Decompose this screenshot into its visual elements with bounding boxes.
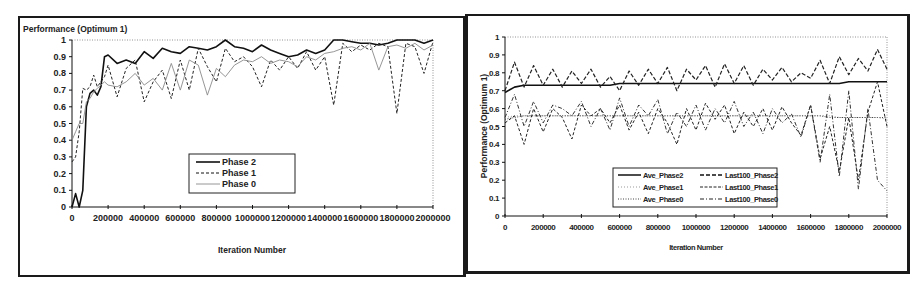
x-tick-label: 200000 [93, 213, 123, 223]
y-tick-label: 0.2 [53, 169, 66, 179]
x-tick-label: 400000 [129, 213, 159, 223]
x-tick-label: 800000 [201, 213, 231, 223]
y-tick-label: 0.1 [53, 185, 66, 195]
y-tick-label: 0.3 [489, 158, 500, 167]
x-tick-label: 1800000 [835, 223, 864, 232]
left-chart: Performance (Optimum 1) 00.10.20.30.40.5… [23, 24, 451, 255]
left-chart-title: Performance (Optimum 1) [23, 24, 128, 34]
x-tick-label: 1400000 [758, 223, 787, 232]
left-x-axis: 0200000400000600000800000100000012000001… [69, 205, 450, 223]
y-tick-label: 0.8 [489, 69, 500, 78]
x-tick-label: 1200000 [720, 223, 749, 232]
x-tick-label: 200000 [531, 223, 556, 232]
charts-canvas: Performance (Optimum 1) 00.10.20.30.40.5… [0, 0, 921, 287]
legend-last100-phase0-label: Last100_Phase0 [725, 195, 778, 204]
left-legend: Phase 2 Phase 1 Phase 0 [189, 154, 295, 193]
x-tick-label: 1600000 [796, 223, 825, 232]
y-tick-label: 1 [495, 33, 500, 42]
legend-phase2-label: Phase 2 [222, 157, 256, 167]
legend-last100-phase1-label: Last100_Phase1 [725, 183, 778, 192]
y-tick-label: 0.4 [489, 140, 500, 149]
right-legend: Ave_Phase2 Ave_Phase1 Ave_Phase0 Last100… [613, 168, 778, 207]
x-tick-label: 2000000 [873, 223, 902, 232]
legend-phase1-label: Phase 1 [222, 168, 256, 178]
legend-ave-phase0-label: Ave_Phase0 [643, 195, 683, 204]
y-tick-label: 0.9 [53, 52, 66, 62]
left-x-axis-title: Iteration Number [218, 245, 287, 255]
y-tick-label: 0.4 [53, 135, 66, 145]
y-tick-label: 0.9 [489, 51, 500, 60]
x-tick-label: 1000000 [682, 223, 711, 232]
x-tick-label: 1200000 [271, 213, 306, 223]
y-tick-label: 0.5 [53, 119, 66, 129]
x-tick-label: 600000 [607, 223, 632, 232]
x-tick-label: 2000000 [415, 213, 450, 223]
y-tick-label: 0.3 [53, 152, 66, 162]
x-tick-label: 1400000 [307, 213, 342, 223]
y-tick-label: 0.6 [53, 102, 66, 112]
x-tick-label: 600000 [165, 213, 195, 223]
legend-phase0-label: Phase 0 [222, 179, 256, 189]
x-tick-label: 800000 [646, 223, 671, 232]
x-tick-label: 0 [69, 213, 74, 223]
left-y-axis: 00.10.20.30.40.50.60.70.80.91 [53, 35, 72, 212]
right-x-axis: 0200000400000600000800000100000012000001… [503, 214, 902, 232]
y-tick-label: 0.1 [489, 194, 500, 203]
y-tick-label: 0.7 [53, 85, 66, 95]
y-tick-label: 0 [61, 202, 66, 212]
y-tick-label: 0.6 [489, 105, 500, 114]
legend-ave-phase2-label: Ave_Phase2 [643, 171, 683, 180]
x-tick-label: 0 [503, 223, 508, 232]
y-tick-label: 0.2 [489, 176, 500, 185]
x-tick-label: 1600000 [343, 213, 378, 223]
y-tick-label: 0.8 [53, 68, 66, 78]
x-tick-label: 400000 [569, 223, 594, 232]
legend-ave-phase1-label: Ave_Phase1 [643, 183, 683, 192]
y-tick-label: 0 [495, 212, 500, 221]
y-tick-label: 0.5 [489, 123, 500, 132]
y-tick-label: 1 [61, 35, 66, 45]
right-chart: Performance (Optimum 1) 00.10.20.30.40.5… [479, 33, 902, 252]
series-phase-0-line [72, 43, 433, 140]
x-tick-label: 1000000 [235, 213, 270, 223]
right-x-axis-title: Iteration Number [669, 243, 723, 252]
right-y-axis-title: Performance (Optimum 1) [479, 74, 489, 179]
legend-last100-phase2-label: Last100_Phase2 [725, 171, 778, 180]
y-tick-label: 0.7 [489, 87, 500, 96]
right-y-axis: 00.10.20.30.40.50.60.70.80.91 [489, 33, 505, 221]
x-tick-label: 1800000 [379, 213, 414, 223]
